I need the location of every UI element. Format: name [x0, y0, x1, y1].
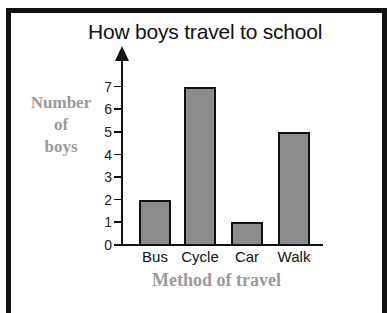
y-tick	[114, 131, 122, 133]
y-tick	[114, 221, 122, 223]
bar-car	[231, 222, 263, 246]
y-tick-label: 4	[100, 148, 112, 162]
y-tick	[114, 86, 122, 88]
y-tick	[114, 154, 122, 156]
y-tick	[114, 244, 122, 246]
y-axis-label-line: boys	[16, 136, 106, 158]
y-tick-label: 7	[100, 80, 112, 94]
y-tick	[114, 199, 122, 201]
bar-walk	[278, 132, 310, 246]
y-tick-label: 6	[100, 102, 112, 116]
x-category-label: Car	[222, 248, 272, 265]
y-tick-label: 1	[100, 215, 112, 229]
chart-title: How boys travel to school	[88, 20, 322, 44]
x-category-label: Walk	[269, 248, 319, 265]
y-axis-label-line: Number	[16, 92, 106, 114]
y-tick	[114, 108, 122, 110]
y-tick-label: 5	[100, 125, 112, 139]
x-category-label: Cycle	[175, 248, 225, 265]
y-axis-label-line: of	[16, 114, 106, 136]
y-tick-label: 3	[100, 170, 112, 184]
y-tick	[114, 176, 122, 178]
bar-bus	[139, 200, 171, 246]
y-tick-label: 2	[100, 193, 112, 207]
x-axis-label: Method of travel	[152, 270, 281, 291]
y-axis-label: Number of boys	[16, 92, 106, 158]
bar-cycle	[184, 87, 216, 246]
y-tick-label: 0	[100, 238, 112, 252]
x-category-label: Bus	[130, 248, 180, 265]
